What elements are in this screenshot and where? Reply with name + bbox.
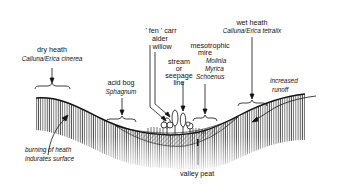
svg-text:indurates surface: indurates surface xyxy=(25,155,74,162)
svg-text:Molinia: Molinia xyxy=(206,57,227,64)
svg-text:burning of heath: burning of heath xyxy=(25,146,72,154)
svg-text:Calluna/Erica cinerea: Calluna/Erica cinerea xyxy=(22,55,83,62)
wet-heath-label: wet heath Calluna/Erica tetralix xyxy=(223,18,282,34)
valley-peat-marker xyxy=(197,139,199,146)
svg-text:willow: willow xyxy=(151,42,172,51)
svg-text:Schoenus: Schoenus xyxy=(196,73,225,80)
acid-bog-label: acid bog Sphagnum xyxy=(106,78,138,96)
valley-cross-section-diagram: dry heath Calluna/Erica cinerea acid bog… xyxy=(0,0,339,184)
stream-label: stream or seepage line xyxy=(165,57,193,87)
svg-text:Sphagnum: Sphagnum xyxy=(106,88,138,96)
dry-heath-label: dry heath Calluna/Erica cinerea xyxy=(22,45,83,62)
svg-text:acid bog: acid bog xyxy=(107,78,134,87)
valley-peat-label: valley peat xyxy=(180,169,214,178)
svg-text:increased: increased xyxy=(270,77,298,84)
svg-text:dry heath: dry heath xyxy=(37,45,67,54)
svg-text:line: line xyxy=(173,78,184,87)
svg-text:wet heath: wet heath xyxy=(235,18,267,27)
svg-text:runoff: runoff xyxy=(272,86,290,93)
svg-text:Calluna/Erica tetralix: Calluna/Erica tetralix xyxy=(223,27,282,34)
svg-text:mire: mire xyxy=(198,48,212,57)
mesotrophic-mire-label: mesotrophic mire Molinia Myrica Schoenus xyxy=(190,41,230,80)
svg-text:Myrica: Myrica xyxy=(205,65,224,73)
